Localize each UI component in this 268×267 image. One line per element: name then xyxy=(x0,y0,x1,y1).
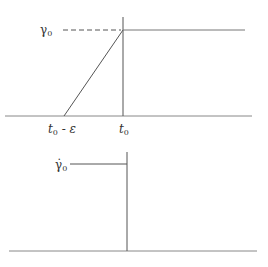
gamma0-label: γ0 xyxy=(40,23,52,38)
strain-diagram: γ0 t0 - ε t0 γ̇0 xyxy=(0,0,268,267)
ramp-line xyxy=(64,30,123,116)
t0-minus-epsilon-label: t0 - ε xyxy=(48,122,76,137)
bottom-plot xyxy=(9,152,257,251)
t0-label: t0 xyxy=(119,122,129,137)
gamma-dot0-label: γ̇0 xyxy=(55,158,67,173)
